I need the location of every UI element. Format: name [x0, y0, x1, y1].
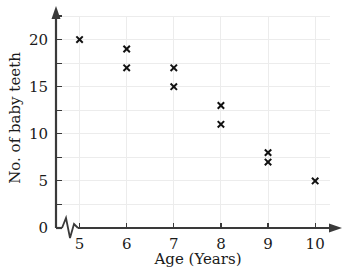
gridlines	[56, 16, 330, 228]
x-axis	[56, 218, 342, 238]
axis-ticks	[56, 16, 315, 228]
x-tick-label: 9	[263, 235, 273, 253]
x-tick-label: 6	[122, 235, 132, 253]
y-axis-arrowhead	[52, 6, 61, 19]
y-tick-label: 0	[38, 219, 48, 237]
scatter-plot-figure: 5678910 05101520 Age (Years) No. of baby…	[0, 0, 346, 269]
y-axis-title: No. of baby teeth	[6, 52, 24, 184]
x-axis-arrowhead	[329, 224, 342, 233]
chart-canvas: 5678910 05101520 Age (Years) No. of baby…	[0, 0, 346, 269]
y-tick-label: 20	[29, 31, 48, 49]
x-tick-label: 5	[75, 235, 85, 253]
y-tick-label: 15	[29, 78, 48, 96]
y-tick-label: 10	[29, 125, 48, 143]
y-tick-labels: 05101520	[29, 31, 48, 237]
x-axis-title: Age (Years)	[153, 250, 241, 268]
x-tick-label: 10	[306, 235, 325, 253]
y-tick-label: 5	[38, 172, 48, 190]
